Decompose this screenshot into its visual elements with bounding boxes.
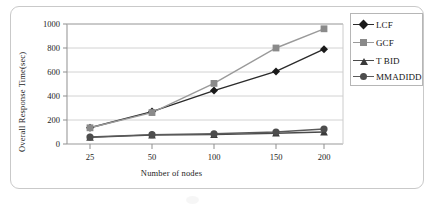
data-series-layer xyxy=(86,25,328,140)
legend-item-gcf[interactable]: GCF xyxy=(353,34,394,51)
legend-marker-circle-icon xyxy=(353,71,374,82)
y-tick-label: 800 xyxy=(26,43,60,53)
x-tick-label: 50 xyxy=(132,152,172,162)
x-tick-label: 150 xyxy=(256,152,296,162)
legend-marker-triangle-icon xyxy=(353,55,374,66)
y-tick-label: 200 xyxy=(26,115,60,125)
figure-root: Overall Response Time(sec) Number of nod… xyxy=(0,0,441,210)
legend-label: LCF xyxy=(376,20,393,30)
legend-label: T BID xyxy=(376,56,400,66)
x-tick-label: 100 xyxy=(194,152,234,162)
legend-label: MMADIDD xyxy=(376,72,422,82)
y-tick-label: 400 xyxy=(26,91,60,101)
x-axis-title: Number of nodes xyxy=(0,168,343,178)
y-tick-label: 0 xyxy=(26,139,60,149)
series-t-bid xyxy=(90,132,324,137)
legend-item-mmadidd[interactable]: MMADIDD xyxy=(353,68,422,85)
legend-item-tbid[interactable]: T BID xyxy=(353,52,400,69)
legend-item-lcf[interactable]: LCF xyxy=(353,16,393,33)
series-gcf xyxy=(90,29,324,128)
y-tick-label: 1000 xyxy=(26,19,60,29)
series-lcf xyxy=(90,49,324,128)
x-tick-label: 25 xyxy=(70,152,110,162)
legend-marker-diamond-icon xyxy=(353,19,374,30)
chart-legend: LCF GCF T BID MMADIDD xyxy=(350,13,423,86)
legend-label: GCF xyxy=(376,38,394,48)
y-tick-label: 600 xyxy=(26,67,60,77)
legend-marker-square-icon xyxy=(353,37,374,48)
x-tick-label: 200 xyxy=(304,152,344,162)
